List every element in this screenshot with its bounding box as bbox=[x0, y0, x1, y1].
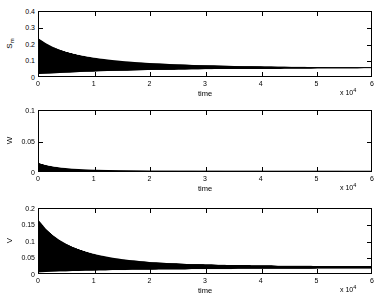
y-tick-label: 0.3 bbox=[25, 24, 35, 31]
x-tick-label: 0 bbox=[31, 175, 45, 182]
y-tick-mark bbox=[39, 258, 43, 259]
plot-area-w bbox=[39, 111, 371, 171]
x-tick-label: 3 bbox=[198, 80, 212, 87]
x-tick-label: 5 bbox=[309, 277, 323, 284]
x-tick-mark bbox=[150, 111, 151, 115]
subplot-w: W 00.050.1 0123456 time x 104 bbox=[0, 99, 388, 199]
x-tick-label: 2 bbox=[142, 277, 156, 284]
x-tick-label: 4 bbox=[254, 175, 268, 182]
x-tick-mark bbox=[206, 209, 207, 213]
x-tick-mark bbox=[262, 111, 263, 115]
x-tick-mark bbox=[262, 12, 263, 16]
multiplier-exponent: 4 bbox=[353, 284, 356, 290]
x-tick-mark bbox=[150, 209, 151, 213]
y-tick-label: 0.1 bbox=[25, 57, 35, 64]
y-tick-labels-sm: 00.10.20.30.4 bbox=[10, 0, 35, 87]
y-tick-label: 0.2 bbox=[25, 41, 35, 48]
x-tick-mark bbox=[95, 111, 96, 115]
y-tick-label: 0.05 bbox=[21, 254, 35, 261]
x-tick-mark bbox=[206, 12, 207, 16]
x-tick-mark bbox=[206, 111, 207, 115]
x-tick-label: 2 bbox=[142, 175, 156, 182]
multiplier-exponent: 4 bbox=[353, 87, 356, 93]
y-tick-mark bbox=[39, 142, 43, 143]
x-tick-mark bbox=[317, 111, 318, 115]
subplot-sm: Sm 00.10.20.30.4 0123456 time x 104 bbox=[0, 0, 388, 104]
y-tick-mark bbox=[367, 61, 371, 62]
x-tick-mark bbox=[150, 72, 151, 76]
x-axis-multiplier-sm: x 104 bbox=[340, 89, 356, 96]
y-tick-label: 0.15 bbox=[21, 221, 35, 228]
x-tick-label: 3 bbox=[198, 277, 212, 284]
y-tick-label: 0.2 bbox=[25, 205, 35, 212]
x-tick-mark bbox=[262, 72, 263, 76]
x-tick-label: 5 bbox=[309, 175, 323, 182]
x-tick-label: 6 bbox=[365, 175, 379, 182]
x-tick-label: 6 bbox=[365, 277, 379, 284]
axes-w bbox=[38, 110, 372, 172]
y-tick-mark bbox=[367, 242, 371, 243]
x-tick-mark bbox=[262, 209, 263, 213]
subplot-v: V 00.050.10.150.2 0123456 time x 104 bbox=[0, 197, 388, 307]
x-tick-mark bbox=[317, 209, 318, 213]
x-tick-mark bbox=[95, 12, 96, 16]
x-tick-label: 0 bbox=[31, 277, 45, 284]
multiplier-base: x 10 bbox=[340, 89, 353, 96]
x-tick-label: 0 bbox=[31, 80, 45, 87]
x-tick-mark bbox=[317, 72, 318, 76]
x-tick-label: 2 bbox=[142, 80, 156, 87]
y-tick-label: 0.1 bbox=[25, 107, 35, 114]
x-tick-mark bbox=[206, 269, 207, 273]
x-tick-label: 1 bbox=[87, 277, 101, 284]
x-tick-label: 4 bbox=[254, 277, 268, 284]
y-tick-mark bbox=[367, 225, 371, 226]
x-axis-multiplier-w: x 104 bbox=[340, 184, 356, 191]
y-tick-mark bbox=[367, 258, 371, 259]
y-tick-mark bbox=[39, 28, 43, 29]
x-tick-mark bbox=[317, 269, 318, 273]
figure-canvas: Sm 00.10.20.30.4 0123456 time x 104 W 00… bbox=[0, 0, 388, 307]
x-tick-mark bbox=[95, 209, 96, 213]
y-tick-label: 0.1 bbox=[25, 238, 35, 245]
x-axis-label-w: time bbox=[165, 184, 245, 193]
y-tick-mark bbox=[367, 45, 371, 46]
y-tick-mark bbox=[367, 28, 371, 29]
x-tick-label: 1 bbox=[87, 175, 101, 182]
x-tick-mark bbox=[150, 12, 151, 16]
y-tick-mark bbox=[39, 45, 43, 46]
plot-area-v bbox=[39, 209, 371, 273]
y-tick-mark bbox=[39, 242, 43, 243]
y-tick-mark bbox=[367, 142, 371, 143]
y-tick-mark bbox=[39, 61, 43, 62]
x-tick-label: 1 bbox=[87, 80, 101, 87]
y-tick-label: 0.4 bbox=[25, 8, 35, 15]
x-axis-multiplier-v: x 104 bbox=[340, 286, 356, 293]
x-tick-mark bbox=[206, 167, 207, 171]
x-tick-label: 4 bbox=[254, 80, 268, 87]
y-tick-label: 0.05 bbox=[21, 138, 35, 145]
axes-sm bbox=[38, 11, 372, 77]
x-tick-mark bbox=[206, 72, 207, 76]
x-tick-mark bbox=[317, 12, 318, 16]
x-axis-label-v: time bbox=[165, 286, 245, 295]
x-tick-mark bbox=[95, 72, 96, 76]
x-axis-label-sm: time bbox=[165, 89, 245, 98]
x-tick-label: 5 bbox=[309, 80, 323, 87]
multiplier-base: x 10 bbox=[340, 184, 353, 191]
x-tick-mark bbox=[317, 167, 318, 171]
x-tick-mark bbox=[95, 167, 96, 171]
x-tick-mark bbox=[262, 269, 263, 273]
multiplier-exponent: 4 bbox=[353, 182, 356, 188]
axes-v bbox=[38, 208, 372, 274]
y-tick-mark bbox=[39, 225, 43, 226]
plot-area-sm bbox=[39, 12, 371, 76]
multiplier-base: x 10 bbox=[340, 286, 353, 293]
x-tick-mark bbox=[95, 269, 96, 273]
x-tick-mark bbox=[150, 269, 151, 273]
y-tick-labels-v: 00.050.10.150.2 bbox=[10, 197, 35, 284]
x-tick-label: 6 bbox=[365, 80, 379, 87]
x-tick-label: 3 bbox=[198, 175, 212, 182]
x-tick-mark bbox=[262, 167, 263, 171]
y-tick-labels-w: 00.050.1 bbox=[10, 99, 35, 182]
x-tick-mark bbox=[150, 167, 151, 171]
